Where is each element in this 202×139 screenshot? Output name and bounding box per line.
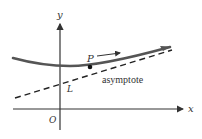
motion-arrow [97,53,120,56]
line-l-label: L [66,84,73,94]
point-p [88,65,93,70]
y-axis-label: y [56,9,63,20]
asymptote-diagram: y x O P asymptote L [0,0,202,139]
x-axis-label: x [188,103,194,114]
asymptote-label: asymptote [102,74,144,85]
origin-label: O [49,115,57,125]
point-p-label: P [86,53,94,64]
